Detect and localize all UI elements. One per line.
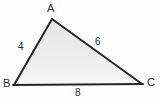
vertex-label-c: C	[147, 77, 155, 88]
side-length-label-ab: 4	[18, 42, 24, 52]
triangle-side-bc	[13, 84, 143, 85]
side-length-label-bc: 8	[75, 88, 81, 98]
side-length-label-ac: 6	[95, 37, 101, 47]
vertex-label-a: A	[47, 3, 54, 14]
triangle-figure: A B C 4 6 8	[0, 0, 160, 102]
vertex-label-b: B	[3, 78, 10, 89]
